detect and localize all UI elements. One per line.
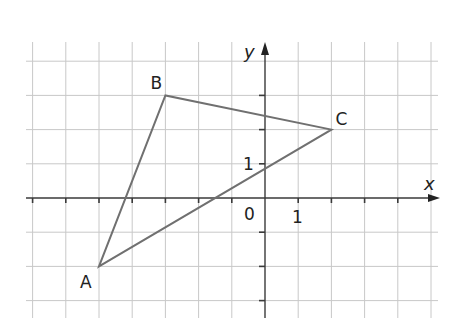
- y-axis-arrow-icon: [261, 42, 269, 55]
- vertex-label-b: B: [150, 73, 162, 93]
- x-axis-label: x: [423, 173, 435, 194]
- y-axis-label: y: [243, 41, 255, 62]
- origin-label: 0: [244, 204, 255, 224]
- vertex-label-c: C: [335, 109, 347, 129]
- y-unit-label: 1: [243, 154, 254, 174]
- x-unit-label: 1: [292, 207, 303, 227]
- vertex-label-a: A: [80, 272, 92, 292]
- triangle-abc: [99, 95, 331, 266]
- coordinate-plane: A B C x y 0 1 1: [0, 0, 454, 336]
- x-axis-arrow-icon: [428, 194, 440, 202]
